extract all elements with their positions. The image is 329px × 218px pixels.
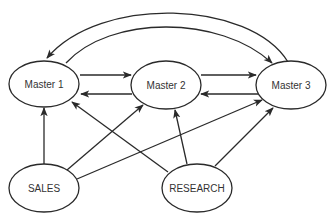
edge-sales-to-master2 bbox=[67, 105, 143, 170]
node-label: RESEARCH bbox=[169, 183, 225, 194]
edge-master3-to-master1 bbox=[47, 13, 288, 62]
edge-research-to-master1 bbox=[72, 102, 168, 172]
node-master2: Master 2 bbox=[131, 61, 201, 109]
diagram-canvas: Master 1 Master 2 Master 3 SALES RESEARC… bbox=[0, 0, 329, 218]
node-label: Master 1 bbox=[25, 79, 64, 90]
edge-master1-to-master3 bbox=[66, 27, 272, 63]
node-label: SALES bbox=[28, 183, 61, 194]
node-master1: Master 1 bbox=[9, 61, 79, 107]
edge-sales-to-master3 bbox=[77, 100, 262, 179]
node-research: RESEARCH bbox=[162, 164, 232, 212]
node-label: Master 2 bbox=[147, 80, 186, 91]
node-label: Master 3 bbox=[272, 80, 311, 91]
node-master3: Master 3 bbox=[256, 61, 326, 109]
node-sales: SALES bbox=[9, 164, 79, 212]
